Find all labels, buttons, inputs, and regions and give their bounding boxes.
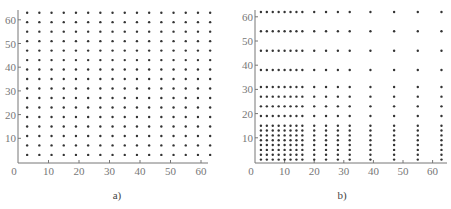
data-point — [209, 30, 211, 32]
data-point — [277, 115, 279, 117]
data-point — [185, 116, 187, 118]
data-point — [301, 86, 303, 88]
data-point — [160, 154, 162, 156]
data-point — [369, 134, 371, 136]
data-point — [87, 78, 89, 80]
data-point — [38, 135, 40, 137]
data-point — [26, 116, 28, 118]
x-tick-label: 60 — [427, 165, 439, 177]
data-point — [283, 144, 285, 146]
data-point — [369, 149, 371, 151]
data-point — [417, 115, 419, 117]
data-point — [272, 125, 274, 127]
data-point — [87, 106, 89, 108]
data-point — [136, 97, 138, 99]
data-point — [301, 154, 303, 156]
data-point — [124, 21, 126, 23]
data-point — [337, 129, 339, 131]
x-tick-label: 20 — [74, 165, 86, 177]
data-point — [272, 134, 274, 136]
data-point — [63, 21, 65, 23]
data-point — [185, 68, 187, 70]
data-point — [289, 69, 291, 71]
data-point — [301, 11, 303, 13]
data-point — [124, 116, 126, 118]
data-point — [50, 78, 52, 80]
data-point — [440, 144, 442, 146]
data-point — [209, 21, 211, 23]
data-point — [185, 97, 187, 99]
x-tick-label: 50 — [165, 165, 177, 177]
data-point — [260, 86, 262, 88]
data-point — [417, 30, 419, 32]
data-point — [160, 30, 162, 32]
data-point — [50, 30, 52, 32]
data-point — [50, 87, 52, 89]
data-point — [260, 95, 262, 97]
data-point — [38, 87, 40, 89]
data-point — [148, 68, 150, 70]
data-point — [136, 87, 138, 89]
data-point — [26, 135, 28, 137]
data-point — [277, 139, 279, 141]
data-point — [313, 86, 315, 88]
data-point — [440, 105, 442, 107]
data-point — [75, 87, 77, 89]
data-point — [301, 134, 303, 136]
data-point — [266, 144, 268, 146]
data-point — [136, 49, 138, 51]
data-point — [111, 97, 113, 99]
data-point — [369, 86, 371, 88]
data-point — [295, 30, 297, 32]
data-point — [260, 105, 262, 107]
data-point — [148, 11, 150, 13]
data-point — [289, 129, 291, 131]
data-point — [393, 149, 395, 151]
data-point — [185, 49, 187, 51]
data-point — [393, 154, 395, 156]
data-point — [272, 11, 274, 13]
data-point — [26, 40, 28, 42]
data-point — [349, 49, 351, 51]
data-point — [209, 87, 211, 89]
data-point — [99, 68, 101, 70]
data-point — [26, 154, 28, 156]
data-point — [63, 87, 65, 89]
data-point — [266, 149, 268, 151]
data-point — [313, 49, 315, 51]
data-point — [417, 144, 419, 146]
data-point — [99, 78, 101, 80]
data-point — [283, 30, 285, 32]
data-point — [197, 78, 199, 80]
data-point — [148, 135, 150, 137]
data-point — [301, 105, 303, 107]
data-point — [172, 97, 174, 99]
data-point — [38, 78, 40, 80]
data-point — [349, 149, 351, 151]
data-point — [393, 11, 395, 13]
y-tick-label: 60 — [242, 11, 254, 23]
data-point — [295, 154, 297, 156]
data-point — [26, 30, 28, 32]
data-point — [209, 49, 211, 51]
data-point — [75, 106, 77, 108]
y-tick-label: 10 — [5, 132, 17, 144]
data-point — [337, 95, 339, 97]
data-point — [295, 129, 297, 131]
data-point — [266, 125, 268, 127]
data-point — [440, 69, 442, 71]
data-point — [124, 40, 126, 42]
data-point — [283, 125, 285, 127]
data-point — [337, 115, 339, 117]
data-point — [99, 40, 101, 42]
data-point — [301, 69, 303, 71]
data-point — [301, 129, 303, 131]
data-point — [197, 68, 199, 70]
data-point — [124, 97, 126, 99]
x-tick-label: 40 — [135, 165, 147, 177]
data-point — [172, 30, 174, 32]
data-point — [283, 158, 285, 160]
data-point — [325, 95, 327, 97]
data-point — [136, 78, 138, 80]
data-point — [185, 144, 187, 146]
